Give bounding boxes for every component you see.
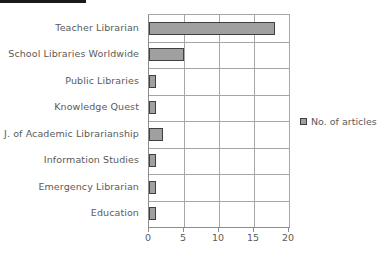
axis-tick-label: 20 [282,233,294,243]
bar-slot [149,15,289,42]
bar[interactable] [149,101,156,114]
horizontal-bar-chart: Teacher Librarian School Libraries World… [0,0,389,260]
category-label: Knowledge Quest [0,94,144,121]
bar-slot [149,148,289,175]
bar-slot [149,42,289,69]
vertical-gridline [289,15,290,227]
bar[interactable] [149,128,163,141]
legend: No. of articles [300,117,377,127]
legend-label: No. of articles [311,117,377,127]
plot-area [148,14,290,228]
category-axis-labels: Teacher Librarian School Libraries World… [0,14,144,226]
bar-slot [149,68,289,95]
bar-slot [149,95,289,122]
axis-tick-label: 5 [180,233,186,243]
bar[interactable] [149,154,156,167]
category-label: School Libraries Worldwide [0,41,144,68]
axis-tick-label: 0 [145,233,151,243]
bar-slot [149,174,289,201]
bar-slot [149,201,289,228]
bar[interactable] [149,22,275,35]
bar-slot [149,121,289,148]
category-label: J. of Academic Librarianship [0,120,144,147]
bar[interactable] [149,181,156,194]
category-label: Information Studies [0,147,144,174]
bar-series [149,15,289,227]
category-label: Education [0,200,144,227]
axis-tick-label: 10 [212,233,224,243]
legend-swatch-icon [300,118,307,125]
axis-tick-label: 15 [247,233,259,243]
category-label: Emergency Librarian [0,173,144,200]
category-label: Teacher Librarian [0,14,144,41]
value-axis-labels: 05101520 [148,233,289,247]
bar[interactable] [149,75,156,88]
bar[interactable] [149,48,184,61]
category-label: Public Libraries [0,67,144,94]
bar[interactable] [149,207,156,220]
